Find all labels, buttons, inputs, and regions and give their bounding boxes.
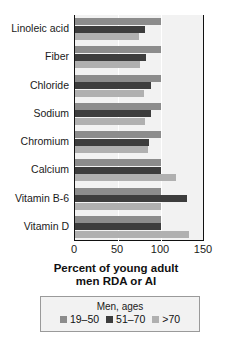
bar [75,216,161,223]
x-axis-label-line2: men RDA or AI [0,275,232,288]
category-label: Chromium [0,136,69,147]
bar [75,131,161,138]
category-label: Chloride [0,80,69,91]
x-tick-label: 150 [183,243,223,255]
legend-label: 51–70 [116,314,145,325]
legend-item: >70 [152,314,180,325]
legend-title: Men, ages [41,301,199,313]
bar [75,146,148,153]
bar [75,33,139,40]
bar [75,46,161,53]
plot-right-border [203,15,204,241]
x-tick-label: 50 [97,243,137,255]
category-label: Sodium [0,108,69,119]
x-tick-label: 0 [54,243,94,255]
legend-item: 51–70 [106,314,145,325]
legend-items: 19–5051–70>70 [41,314,199,325]
bar [75,223,161,230]
category-label: Linoleic acid [0,23,69,34]
x-axis-label-line1: Percent of young adult [0,262,232,275]
bar [75,203,161,210]
bar [75,110,151,117]
bar [75,188,161,195]
chart-plot-area: Linoleic acidFiberChlorideSodiumChromium… [0,13,232,245]
category-label: Vitamin D [0,221,69,232]
category-label: Calcium [0,164,69,175]
bar [75,159,161,166]
bar [75,18,161,25]
x-axis-ticks: 050100150 [0,243,232,259]
bar [75,118,145,125]
bar [75,75,161,82]
category-axis-labels: Linoleic acidFiberChlorideSodiumChromium… [0,13,72,245]
chart-title [0,0,232,9]
bar [75,103,161,110]
legend-swatch-icon [106,316,113,323]
bar [75,90,144,97]
bar [75,54,146,61]
chart-legend: Men, ages 19–5051–70>70 [40,296,200,332]
bar [75,26,145,33]
gridline [161,15,162,241]
bar [75,139,149,146]
bar [75,174,176,181]
bar [75,82,151,89]
x-axis-label: Percent of young adult men RDA or AI [0,262,232,288]
legend-swatch-icon [152,316,159,323]
plot-frame [74,15,203,241]
legend-item: 19–50 [60,314,99,325]
category-label: Vitamin B-6 [0,193,69,204]
category-label: Fiber [0,51,69,62]
legend-label: 19–50 [70,314,99,325]
bar [75,61,140,68]
legend-label: >70 [162,314,180,325]
legend-swatch-icon [60,316,67,323]
bar [75,195,187,202]
x-tick-label: 100 [140,243,180,255]
bar [75,231,189,238]
bar [75,167,161,174]
